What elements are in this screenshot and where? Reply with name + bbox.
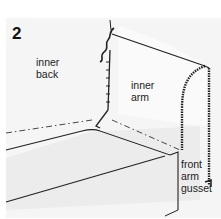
seat-front-face: [6, 126, 200, 210]
seam-tail: [110, 20, 111, 30]
label-front-arm-gusset: front arm gusset: [181, 158, 212, 194]
upholstery-diagram: 2 inner back inner arm front arm gusset: [0, 0, 221, 219]
label-gusset-line3: gusset: [181, 182, 212, 194]
label-inner-back: inner back: [36, 56, 59, 80]
back-arm-seam: [108, 50, 110, 110]
step-number: 2: [12, 25, 21, 42]
label-inner-back-line1: inner: [36, 56, 59, 68]
seam-loops: [100, 28, 114, 62]
gusset-bottom-edge: [165, 210, 178, 216]
label-inner-arm: inner arm: [131, 79, 154, 103]
back-crease-line: [6, 120, 92, 133]
label-gusset-line2: arm: [181, 170, 212, 182]
label-inner-back-line2: back: [36, 68, 59, 80]
label-inner-arm-line1: inner: [131, 79, 154, 91]
label-gusset-line1: front: [181, 158, 212, 170]
label-inner-arm-line2: arm: [131, 91, 154, 103]
corner-joint: [96, 110, 108, 128]
